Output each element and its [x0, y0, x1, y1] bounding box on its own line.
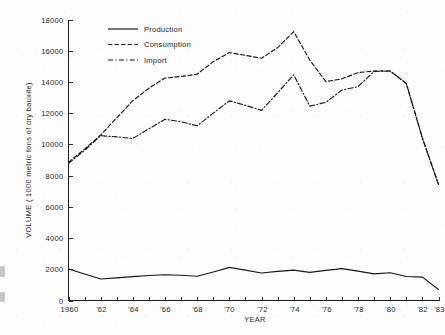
x-tick-label: '74 [289, 305, 300, 314]
x-tick-label: '80 [385, 305, 396, 314]
series-line-import [69, 71, 439, 184]
x-axis-tick-labels: 1960'62'64'66'68'70'72'74'76'78'80'82'83 [61, 305, 445, 314]
legend-label-consumption: Consumption [144, 40, 191, 49]
x-tick-label: '83 [434, 305, 445, 314]
x-tick-label: '64 [128, 305, 139, 314]
y-tick-label: 4000 [46, 234, 64, 243]
x-tick-label: 1960 [61, 305, 79, 314]
y-tick-label: 18000 [41, 16, 63, 25]
line-chart: 0200040006000800010000120001400016000180… [0, 0, 445, 335]
legend-label-production: Production [144, 25, 182, 34]
y-tick-label: 8000 [46, 172, 64, 181]
chart-page: 0200040006000800010000120001400016000180… [0, 0, 445, 335]
chart-legend: ProductionConsumptionImport [108, 25, 191, 65]
y-tick-label: 2000 [46, 265, 64, 274]
y-tick-label: 10000 [41, 140, 63, 149]
x-tick-label: '82 [417, 305, 428, 314]
y-tick-label: 14000 [41, 78, 63, 87]
x-axis-title: YEAR [244, 315, 266, 324]
x-tick-label: '72 [257, 305, 268, 314]
x-tick-label: '70 [224, 305, 235, 314]
y-axis-tick-labels: 0200040006000800010000120001400016000180… [41, 16, 63, 306]
series-line-consumption [69, 32, 439, 185]
x-axis-ticks [70, 297, 440, 301]
legend-label-import: Import [144, 56, 167, 65]
x-tick-label: '66 [160, 305, 171, 314]
x-tick-label: '76 [321, 305, 332, 314]
y-axis-title: VOLUME ( 1000 metric tons of dry bauxite… [24, 82, 33, 238]
series-line-production [69, 267, 439, 289]
x-tick-label: '78 [353, 305, 364, 314]
y-tick-label: 12000 [41, 109, 63, 118]
y-tick-label: 6000 [46, 203, 64, 212]
y-tick-label: 16000 [41, 47, 63, 56]
data-series-group [69, 32, 439, 290]
scan-edge-artifacts [0, 266, 5, 302]
x-tick-label: '68 [192, 305, 203, 314]
axis-lines [69, 20, 439, 301]
x-tick-label: '62 [96, 305, 107, 314]
